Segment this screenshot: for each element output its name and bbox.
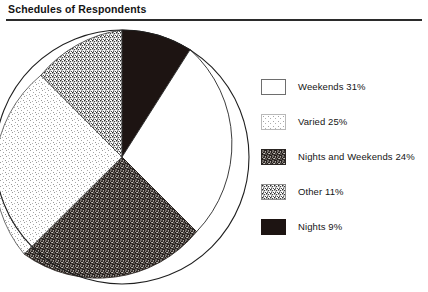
- dense-stipple-glyph: [262, 150, 285, 164]
- medium-stipple-glyph: [262, 185, 285, 199]
- light-stipple-glyph: [262, 115, 285, 129]
- chart-legend: Weekends 31% Varied 25% Nights and Weeke…: [261, 78, 425, 235]
- legend-label-nights-and-weekends: Nights and Weekends 24%: [298, 151, 415, 162]
- legend-item-weekends: Weekends 31%: [261, 78, 425, 95]
- solid-black-swatch-icon: [261, 219, 286, 235]
- medium-stipple-swatch-icon: [261, 184, 286, 200]
- dense-stipple-swatch-icon: [261, 149, 286, 165]
- white-swatch-icon: [261, 79, 286, 95]
- page-title: Schedules of Respondents: [8, 3, 146, 15]
- pie-chart-svg: [0, 24, 252, 292]
- legend-label-varied: Varied 25%: [298, 116, 347, 127]
- legend-label-other: Other 11%: [298, 186, 344, 197]
- legend-label-weekends: Weekends 31%: [298, 81, 366, 92]
- light-stipple-swatch-icon: [261, 114, 286, 130]
- legend-item-other: Other 11%: [261, 183, 425, 200]
- pie-chart: [0, 24, 252, 292]
- legend-item-nights-and-weekends: Nights and Weekends 24%: [261, 148, 425, 165]
- title-divider: [6, 19, 422, 21]
- legend-item-varied: Varied 25%: [261, 113, 425, 130]
- legend-label-nights: Nights 9%: [298, 221, 342, 232]
- legend-item-nights: Nights 9%: [261, 218, 425, 235]
